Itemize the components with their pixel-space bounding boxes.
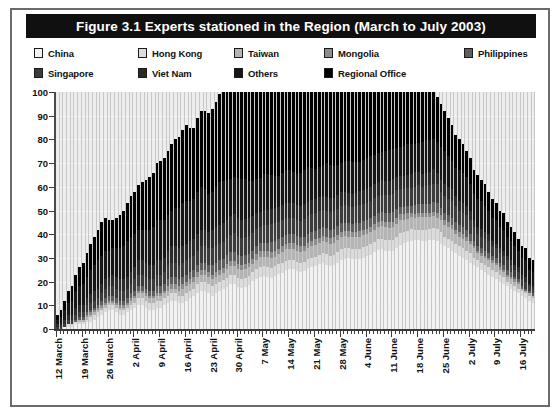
bar-segment: [336, 263, 339, 329]
bar-segment: [432, 202, 435, 211]
bar-segment: [192, 296, 195, 329]
bar-segment: [447, 118, 450, 156]
bar-segment: [451, 125, 454, 161]
bar-segment: [417, 143, 420, 173]
bar-segment: [369, 218, 372, 227]
bar-segment: [181, 130, 184, 203]
bar-segment: [487, 234, 490, 241]
x-axis-tick: [85, 331, 86, 334]
bar-segment: [277, 274, 280, 329]
bar-segment: [454, 244, 457, 253]
bar-segment: [163, 220, 166, 258]
bar-segment: [145, 180, 148, 230]
bar-segment: [458, 246, 461, 255]
bar-segment: [322, 92, 325, 165]
bar-segment: [229, 275, 232, 284]
bar-segment: [189, 284, 192, 291]
x-axis-tick: [196, 331, 197, 334]
bar-segment: [288, 234, 291, 243]
bar-segment: [381, 226, 384, 238]
bar-segment: [381, 180, 384, 194]
bar-segment: [152, 303, 155, 310]
bar-segment: [97, 298, 100, 305]
bar-segment: [521, 296, 524, 329]
bar-segment: [414, 144, 417, 173]
bar-segment: [204, 263, 207, 270]
bar-segment: [436, 173, 439, 185]
x-axis-tick: [155, 331, 156, 334]
bar-segment: [270, 242, 273, 252]
bar-segment: [115, 312, 118, 329]
bar-segment: [211, 248, 214, 265]
bar-segment: [476, 199, 479, 227]
bar-segment: [384, 240, 387, 251]
bar-segment: [226, 92, 229, 180]
legend-label: Mongolia: [338, 48, 379, 59]
bar-segment: [141, 230, 144, 261]
bar-segment: [410, 206, 413, 214]
bar-segment: [119, 215, 122, 248]
bar-segment: [443, 111, 446, 151]
bar-segment: [336, 252, 339, 262]
bar-segment: [270, 258, 273, 268]
bar-segment: [163, 305, 166, 329]
x-axis-tick-label: 28 May: [336, 338, 347, 370]
bar-segment: [159, 286, 162, 293]
x-axis-tick: [119, 331, 120, 334]
bar-segment: [74, 308, 77, 315]
x-axis-tick: [259, 331, 260, 334]
bar-segment: [425, 173, 428, 186]
bar-segment: [506, 286, 509, 329]
bar-segment: [167, 296, 170, 303]
bar-segment: [145, 301, 148, 308]
bar-segment: [89, 322, 92, 329]
bar-segment: [263, 210, 266, 226]
bar-segment: [447, 199, 450, 216]
bar-segment: [174, 263, 177, 277]
bar-segment: [473, 265, 476, 329]
bar-segment: [266, 225, 269, 243]
bar-segment: [215, 284, 218, 293]
bar-segment: [369, 92, 372, 156]
bar-segment: [270, 224, 273, 242]
bar-segment: [108, 286, 111, 295]
x-axis-tick: [395, 331, 396, 334]
x-axis-tick: [170, 331, 171, 334]
bar-segment: [108, 310, 111, 329]
bar-segment: [196, 251, 199, 265]
bar-segment: [152, 310, 155, 329]
bar-segment: [255, 279, 258, 329]
bar-segment: [373, 230, 376, 242]
x-axis-tick: [133, 331, 134, 337]
bar-segment: [310, 200, 313, 214]
bar-segment: [192, 199, 195, 239]
bar-segment: [425, 241, 428, 329]
bar-segment: [115, 248, 118, 276]
bar-segment: [421, 217, 424, 230]
bar-segment: [318, 264, 321, 329]
legend-swatch-icon: [324, 48, 333, 58]
bar-segment: [366, 92, 369, 158]
bar-segment: [119, 315, 122, 329]
bar-segment: [417, 92, 420, 143]
x-axis-tick: [524, 331, 525, 334]
bar-segment: [414, 92, 417, 144]
bar-segment: [240, 279, 243, 288]
bar-segment: [115, 277, 118, 289]
bar-segment: [502, 230, 505, 251]
bar-segment: [204, 189, 207, 229]
bar-segment: [226, 255, 229, 264]
bar-segment: [421, 230, 424, 241]
bar-segment: [451, 201, 454, 218]
legend-item-hong-kong: Hong Kong: [138, 44, 202, 62]
bar-segment: [425, 140, 428, 173]
bar-segment: [495, 203, 498, 220]
bar-segment: [436, 142, 439, 173]
bar-segment: [417, 230, 420, 241]
bar-segment: [196, 192, 199, 235]
bar-segment: [207, 277, 210, 284]
x-axis-tick: [296, 331, 297, 334]
bar-segment: [421, 187, 424, 204]
legend-item-taiwan: Taiwan: [234, 44, 279, 62]
bar-segment: [414, 172, 417, 186]
